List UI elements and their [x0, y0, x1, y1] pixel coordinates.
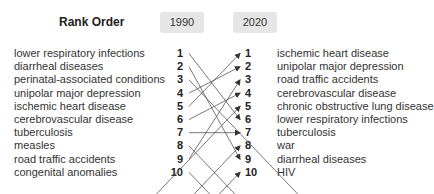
rank-arrow — [189, 172, 210, 194]
rank-arrow — [189, 67, 240, 159]
rank-arrow — [189, 93, 240, 119]
rank-arrow — [189, 80, 298, 194]
rank-arrow — [219, 172, 240, 194]
rank-arrow — [189, 80, 240, 159]
rank-arrow — [189, 54, 240, 120]
rank-arrow — [194, 146, 240, 194]
rank-arrow — [156, 106, 240, 194]
